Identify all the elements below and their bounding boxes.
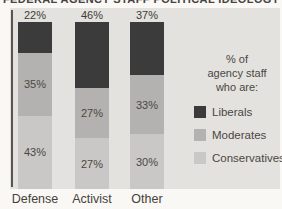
legend-title-line1: % of (194, 52, 280, 66)
value-label-defense-moderates: 35% (24, 78, 46, 90)
segment-defense-conservatives: 43% (18, 116, 52, 189)
legend: % of agency staff who are: Liberals Mode… (194, 52, 280, 175)
stacked-bar: 27% 27% (75, 22, 109, 189)
legend-item-liberals: Liberals (194, 106, 280, 118)
conservatives-swatch-icon (194, 152, 206, 164)
bar-other: 37% 33% 30% (130, 9, 164, 189)
value-label-other-liberals: 37% (130, 9, 164, 22)
segment-other-moderates: 33% (130, 75, 164, 134)
cropped-figure-caption: FEDERAL AGENCY STAFF POLITICAL IDEOLOGY (3, 0, 282, 5)
value-label-other-conservatives: 30% (136, 156, 158, 168)
value-label-activist-liberals: 46% (75, 9, 109, 22)
legend-label-conservatives: Conservatives (212, 152, 282, 164)
legend-item-conservatives: Conservatives (194, 152, 280, 164)
segment-activist-liberals (75, 22, 109, 88)
value-label-activist-conservatives: 27% (81, 158, 103, 170)
legend-label-moderates: Moderates (212, 129, 266, 141)
segment-activist-moderates: 27% (75, 88, 109, 139)
liberals-swatch-icon (194, 106, 206, 118)
legend-label-liberals: Liberals (212, 106, 252, 118)
segment-activist-conservatives: 27% (75, 138, 109, 189)
chart-panel: 22% 35% 43% 46% 27% 27% 37% (10, 8, 280, 189)
value-label-defense-liberals: 22% (18, 9, 52, 22)
x-label-activist: Activist (62, 192, 122, 206)
value-label-defense-conservatives: 43% (24, 146, 46, 158)
legend-title-line3: who are: (194, 80, 280, 94)
cropped-figure-caption-text: FEDERAL AGENCY STAFF POLITICAL IDEOLOGY (3, 0, 282, 5)
segment-defense-moderates: 35% (18, 53, 52, 115)
legend-title-line2: agency staff (194, 66, 280, 80)
segment-defense-liberals (18, 22, 52, 53)
legend-title: % of agency staff who are: (194, 52, 280, 94)
x-label-defense: Defense (5, 192, 65, 206)
segment-other-conservatives: 30% (130, 134, 164, 189)
legend-item-moderates: Moderates (194, 129, 280, 141)
value-label-other-moderates: 33% (136, 99, 158, 111)
segment-other-liberals (130, 22, 164, 75)
bar-defense: 22% 35% 43% (18, 9, 52, 189)
moderates-swatch-icon (194, 129, 206, 141)
y-axis-line (11, 10, 13, 187)
stacked-bar: 33% 30% (130, 22, 164, 189)
bar-activist: 46% 27% 27% (75, 9, 109, 189)
x-label-other: Other (117, 192, 177, 206)
stacked-bar: 35% 43% (18, 22, 52, 189)
value-label-activist-moderates: 27% (81, 107, 103, 119)
